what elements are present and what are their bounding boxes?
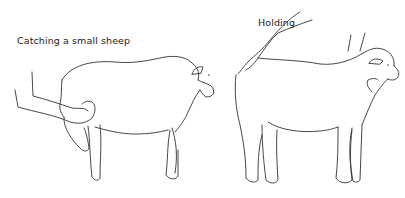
sheep-illustration: [0, 0, 405, 198]
sheep-holding-drawing: [235, 12, 399, 183]
sheep-catching-drawing: [15, 56, 214, 180]
